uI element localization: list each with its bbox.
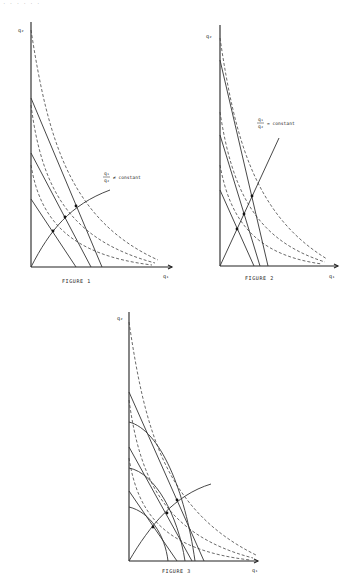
x-axis-label: q₁ (329, 273, 335, 280)
y-axis-label: q₂ (18, 27, 24, 34)
figure-caption: FIGURE 2 (245, 275, 274, 281)
budget-line (220, 60, 268, 266)
figure-caption: FIGURE 1 (62, 278, 91, 284)
tangency-point (251, 195, 254, 198)
expansion-ray (220, 138, 279, 266)
budget-line (31, 98, 102, 267)
tangency-point (166, 512, 169, 515)
indifference-curve (220, 165, 322, 264)
x-axis-label: q₁ (163, 273, 169, 280)
figure-1: q₂ q₁ q₁ q₂ ≠ constant FIGURE 1 (18, 22, 172, 284)
y-axis-label: q₂ (117, 315, 123, 322)
tangency-point (152, 526, 155, 529)
ratio-denominator: q₂ (104, 178, 110, 183)
ratio-denominator: q₂ (258, 124, 264, 129)
indifference-curve (31, 30, 158, 260)
tangency-point (236, 228, 239, 231)
indifference-curve (31, 105, 155, 263)
indifference-curve (129, 322, 256, 555)
x-axis-label: q₁ (252, 567, 258, 574)
figure-2: q₂ q₁ q₁ q₂ = constant FIGURE 2 (206, 25, 338, 281)
budget-line (31, 199, 76, 267)
ratio-relation: ≠ constant (113, 175, 141, 180)
tangency-point (64, 216, 67, 219)
ratio-relation: = constant (267, 121, 295, 126)
figure-canvas: q₂ q₁ q₁ q₂ ≠ constant FIGURE 1 q₂ q₁ (0, 0, 359, 585)
indifference-curve (31, 165, 152, 265)
tangency-point (75, 205, 78, 208)
ratio-numerator: q₁ (104, 171, 110, 176)
budget-line (220, 135, 260, 266)
budget-line (129, 392, 204, 561)
figure-3: q₂ q₁ FIGURE 3 (117, 312, 258, 574)
tangency-point (243, 213, 246, 216)
figure-caption: FIGURE 3 (162, 568, 191, 574)
tangency-point (176, 499, 179, 502)
ratio-numerator: q₁ (258, 117, 264, 122)
transformation-curve (129, 422, 195, 561)
y-axis-label: q₂ (206, 33, 212, 40)
tangency-point (52, 230, 55, 233)
indifference-curve (129, 400, 253, 558)
